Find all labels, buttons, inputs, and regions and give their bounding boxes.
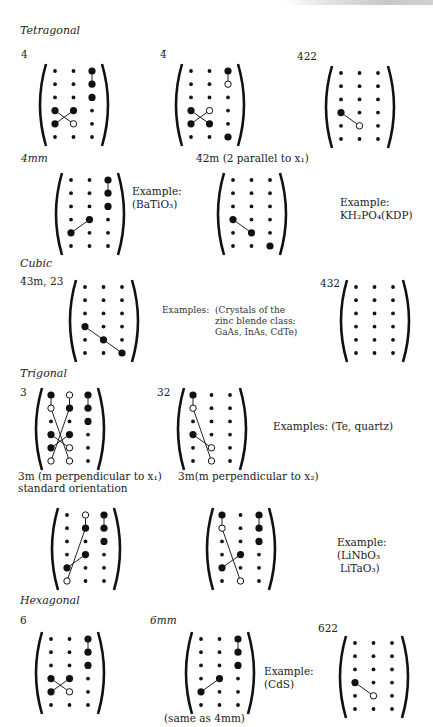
label-3m-x2: 3m(m perpendicular to x₂) <box>178 470 318 482</box>
matrix-4 <box>36 64 112 146</box>
example-te-quartz: Examples: (Te, quartz) <box>273 420 393 433</box>
label-line: standard orientation <box>18 482 162 494</box>
label-42m: 4̄2m (2 parallel to x₁) <box>196 152 309 164</box>
example-linbo3: Example: (LiNbO₃ LiTaO₃) <box>337 536 387 575</box>
label-4: 4 <box>21 48 28 60</box>
label-4mm: 4mm <box>21 152 48 164</box>
label-4bar: 4̄ <box>160 48 167 60</box>
section-hexagonal: Hexagonal <box>20 594 80 607</box>
example-compound: KH₂PO₄(KDP) <box>340 209 413 222</box>
matrix-432 <box>337 280 413 362</box>
example-heading: Example: <box>264 665 314 678</box>
matrix-4mm <box>52 173 128 255</box>
example-heading: Example: <box>132 185 182 198</box>
label-line: 3m (m perpendicular to x₁) <box>18 470 162 482</box>
label-422: 422 <box>297 50 317 62</box>
matrix-4bar <box>172 64 248 146</box>
example-heading: Example: <box>337 536 387 549</box>
section-cubic: Cubic <box>20 257 52 270</box>
example-batio3: Example: (BaTiO₃) <box>132 185 182 211</box>
label-3: 3 <box>20 386 27 398</box>
label-32: 32 <box>157 386 170 398</box>
example-compound: (BaTiO₃) <box>132 198 182 211</box>
label-6: 6 <box>20 614 27 626</box>
label-6mm: 6mm <box>150 614 177 626</box>
matrix-3m-x2 <box>203 508 279 590</box>
matrix-422 <box>322 66 398 148</box>
example-cubic-list: (Crystals of the zinc blende class: GaAs… <box>215 305 297 338</box>
label-3m-x1: 3m (m perpendicular to x₁) standard orie… <box>18 470 162 494</box>
page-header-cutoff <box>283 0 433 5</box>
example-line: (Crystals of the <box>215 305 297 316</box>
matrix-42m <box>214 173 290 255</box>
matrix-6 <box>32 632 108 714</box>
label-same-as-4mm: (same as 4mm) <box>164 712 245 724</box>
section-trigonal: Trigonal <box>20 367 67 380</box>
example-compound: LiTaO₃) <box>337 562 387 575</box>
label-43m-23: 4̄3m, 23 <box>20 275 63 287</box>
matrix-43m <box>66 280 142 362</box>
matrix-622 <box>336 636 412 718</box>
example-compound: (LiNbO₃ <box>337 549 387 562</box>
example-cubic-heading: Examples: <box>162 305 209 316</box>
section-tetragonal: Tetragonal <box>20 24 80 37</box>
example-kdp: Example: KH₂PO₄(KDP) <box>340 196 413 222</box>
example-compound: (CdS) <box>264 678 314 691</box>
example-line: GaAs, InAs, CdTe) <box>215 327 297 338</box>
matrix-3 <box>32 388 108 470</box>
matrix-32 <box>174 388 250 470</box>
example-cds: Example: (CdS) <box>264 665 314 691</box>
matrix-3m-x1 <box>48 508 124 590</box>
example-line: zinc blende class: <box>215 316 297 327</box>
label-622: 622 <box>318 622 338 634</box>
example-heading: Example: <box>340 196 413 209</box>
matrix-6mm <box>182 632 258 714</box>
